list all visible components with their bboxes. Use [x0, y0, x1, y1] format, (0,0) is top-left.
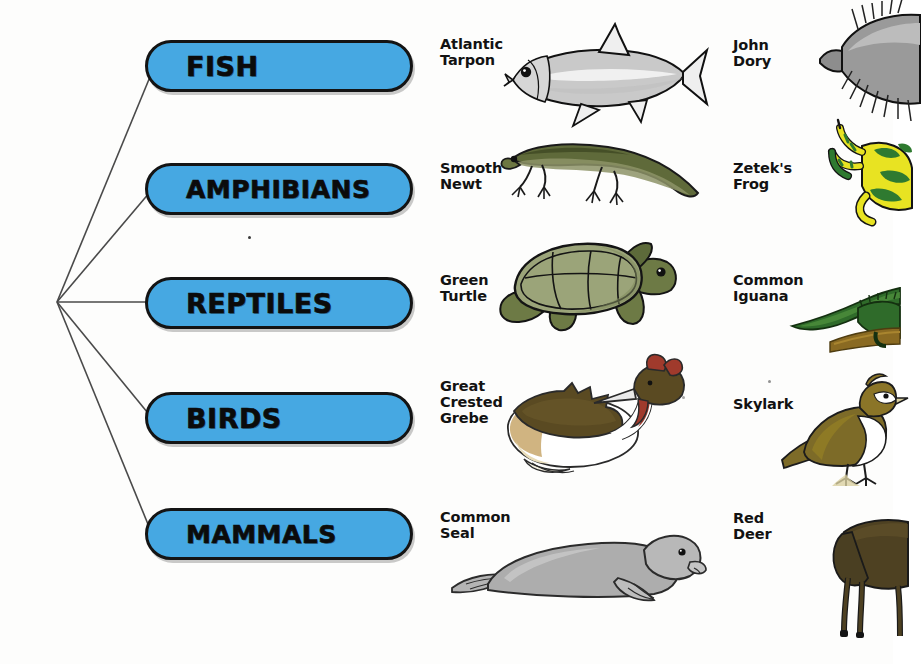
example-label-green-turtle: Green Turtle	[440, 272, 489, 304]
red-deer-illustration	[818, 498, 908, 638]
category-label-birds: BIRDS	[148, 403, 282, 434]
example-label-red-deer: Red Deer	[733, 510, 771, 542]
green-turtle-illustration	[495, 232, 705, 342]
atlantic-tarpon-illustration	[495, 22, 710, 130]
dust-speck	[248, 236, 251, 239]
dust-speck-2	[768, 380, 771, 383]
category-pill-fish[interactable]: FISH	[145, 40, 413, 92]
category-label-mammals: MAMMALS	[148, 520, 337, 549]
example-label-john-dory: John Dory	[733, 37, 771, 69]
category-label-fish: FISH	[148, 51, 259, 82]
category-label-reptiles: REPTILES	[148, 288, 333, 319]
common-iguana-illustration	[790, 282, 900, 362]
example-label-atlantic-tarpon: Atlantic Tarpon	[440, 36, 503, 68]
category-label-amphibians: AMPHIBIANS	[148, 175, 370, 204]
great-crested-grebe-illustration	[498, 355, 713, 480]
category-pill-reptiles[interactable]: REPTILES	[145, 277, 413, 329]
category-pill-birds[interactable]: BIRDS	[145, 392, 413, 444]
zeteks-frog-illustration	[822, 120, 912, 226]
skylark-illustration	[782, 368, 897, 490]
smooth-newt-illustration	[498, 133, 708, 219]
common-seal-illustration	[448, 520, 713, 606]
category-pill-mammals[interactable]: MAMMALS	[145, 508, 413, 560]
john-dory-illustration	[812, 5, 922, 117]
category-pill-amphibians[interactable]: AMPHIBIANS	[145, 163, 413, 215]
example-label-great-crested-grebe: Great Crested Grebe	[440, 378, 503, 426]
example-label-zeteks-frog: Zetek's Frog	[733, 160, 792, 192]
example-label-smooth-newt: Smooth Newt	[440, 160, 502, 192]
